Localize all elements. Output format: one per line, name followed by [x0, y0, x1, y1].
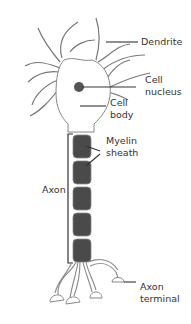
label-dendrite: Dendrite	[141, 36, 182, 47]
label-axon-terminal-1: Axon	[140, 281, 164, 292]
label-myelin-2: sheath	[106, 147, 138, 158]
label-cell-nucleus-2: nucleus	[145, 86, 182, 97]
axon-terminals	[55, 260, 118, 298]
label-axon-terminal-2: terminal	[140, 293, 180, 304]
label-myelin-1: Myelin	[106, 135, 137, 146]
label-cell-nucleus-1: Cell	[145, 74, 163, 85]
label-cell-body-1: Cell	[110, 97, 128, 108]
neuron-diagram	[0, 0, 191, 324]
axon-bracket	[68, 134, 73, 263]
label-axon: Axon	[42, 184, 66, 195]
label-cell-body-2: body	[110, 109, 134, 120]
myelin-segments	[73, 135, 91, 262]
cell-body	[56, 59, 110, 132]
